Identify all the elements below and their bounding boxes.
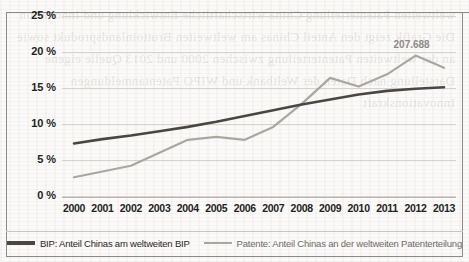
y-axis-tick-15: 15 % [10, 81, 56, 93]
x-axis-tick-2006: 2006 [230, 202, 260, 214]
frame-left-border [6, 12, 7, 257]
x-axis-tick-2005: 2005 [201, 202, 231, 214]
y-axis-tick-5: 5 % [10, 153, 56, 165]
x-axis-tick-2002: 2002 [116, 202, 146, 214]
legend-swatch-patente [204, 242, 232, 245]
data-point-annotation: 207.688 [394, 39, 430, 50]
series-line [74, 56, 444, 178]
legend-item-patente[interactable]: Patente: Anteil Chinas an der weltweiten… [204, 238, 462, 249]
legend-label-bip: BIP: Anteil Chinas am weltweiten BIP [40, 238, 190, 249]
chart-legend: BIP: Anteil Chinas am weltweiten BIP Pat… [0, 236, 469, 250]
x-axis-tick-2000: 2000 [59, 202, 89, 214]
x-axis-tick-2009: 2009 [315, 202, 345, 214]
legend-label-patente: Patente: Anteil Chinas an der weltweiten… [237, 238, 462, 249]
x-axis-line [62, 197, 456, 198]
x-axis-tick-2003: 2003 [144, 202, 174, 214]
x-axis-tick-2010: 2010 [344, 202, 374, 214]
x-axis-tick-2004: 2004 [173, 202, 203, 214]
x-axis-tick-2012: 2012 [401, 202, 431, 214]
series-line [74, 87, 444, 143]
frame-top-border [6, 12, 469, 13]
legend-swatch-bip [7, 241, 35, 245]
frame-right-border [462, 12, 463, 257]
legend-item-bip[interactable]: BIP: Anteil Chinas am weltweiten BIP [7, 238, 190, 249]
y-axis-labels: 0 %5 %10 %15 %20 %25 % [8, 16, 56, 196]
y-axis-tick-20: 20 % [10, 45, 56, 57]
x-axis-tick-2011: 2011 [372, 202, 402, 214]
frame-bottom-border [6, 256, 463, 257]
x-axis-tick-2007: 2007 [258, 202, 288, 214]
y-axis-tick-10: 10 % [10, 117, 56, 129]
y-axis-tick-0: 0 % [10, 189, 56, 201]
y-axis-tick-25: 25 % [10, 9, 56, 21]
x-axis-tick-2008: 2008 [287, 202, 317, 214]
x-axis-tick-2001: 2001 [87, 202, 117, 214]
x-axis-labels: 2000200120022003200420052006200720082009… [62, 202, 456, 218]
legend-separator [6, 231, 463, 232]
x-axis-tick-2013: 2013 [429, 202, 459, 214]
